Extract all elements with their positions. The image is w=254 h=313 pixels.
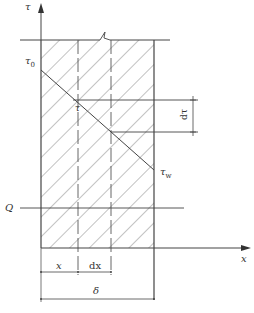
dx-dimension-label: dx xyxy=(89,261,101,271)
tau-axis-arrow-icon xyxy=(38,3,44,13)
tau-axis-label: τ xyxy=(25,2,31,12)
x-axis-label: x xyxy=(241,254,247,264)
top-boundary-line xyxy=(20,32,170,40)
delta-dimension-label: δ xyxy=(93,286,99,296)
hatched-layer xyxy=(41,40,154,248)
dtau-label: dτ xyxy=(180,109,189,120)
diagram-canvas xyxy=(0,0,254,313)
tau-label: τ xyxy=(75,104,80,113)
Q-label: Q xyxy=(5,203,13,213)
tau0-label: τ0 xyxy=(25,56,35,69)
x-axis-arrow-icon xyxy=(241,245,251,251)
tauw-label: τw xyxy=(160,167,172,180)
x-dimension-label: x xyxy=(56,261,62,271)
